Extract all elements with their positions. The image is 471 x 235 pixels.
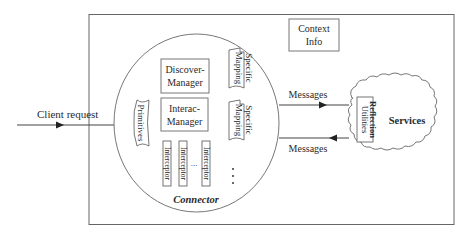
interceptor-1: Interceptor xyxy=(163,141,172,186)
discover-manager-label-1: Discover- xyxy=(165,64,204,75)
messages-in-label: Messages xyxy=(289,143,328,154)
interac-manager-label-2: Manager xyxy=(167,116,203,127)
specific-mapping-label-1: Specific xyxy=(244,53,254,83)
reflection-utilities-label-2: Utilities xyxy=(360,106,370,133)
arrowhead-icon xyxy=(56,122,64,129)
specific-mapping-label-2: Mapping xyxy=(234,52,244,85)
interceptor-label: Interceptor xyxy=(163,147,172,180)
client-request-arrow xyxy=(17,122,116,129)
architecture-diagram: Client request Context Info Primitives D… xyxy=(0,0,471,235)
specific-mapping-label-2: Mapping xyxy=(234,104,244,137)
reflection-utilities-box: Reflection Utilities xyxy=(357,97,378,142)
connector-label: Connector xyxy=(173,194,219,205)
specific-mapping-2: Specific Mapping xyxy=(229,100,254,140)
primitives-label: Primitives xyxy=(136,104,146,141)
interceptor-ellipsis: ... xyxy=(191,158,198,168)
interac-manager-label-1: Interac- xyxy=(169,103,200,114)
interceptor-3: Interceptor xyxy=(202,141,211,186)
primitives-component: Primitives xyxy=(134,100,149,146)
messages-out-arrow xyxy=(279,102,349,109)
services-label: Services xyxy=(389,115,426,126)
client-request-label: Client request xyxy=(37,108,98,120)
messages-out-label: Messages xyxy=(289,89,328,100)
specific-mapping-1: Specific Mapping xyxy=(229,48,254,88)
arrowhead-icon xyxy=(329,135,337,142)
specific-mapping-label-1: Specific xyxy=(244,105,254,135)
interceptor-label: Interceptor xyxy=(202,147,211,180)
arrowhead-icon xyxy=(319,102,327,109)
context-info-label-1: Context xyxy=(298,23,330,34)
messages-in-arrow xyxy=(279,135,349,142)
context-info-label-2: Info xyxy=(306,36,323,47)
interceptor-label: Interceptor xyxy=(179,147,188,180)
discover-manager-label-2: Manager xyxy=(167,77,203,88)
interceptor-2: Interceptor xyxy=(179,141,188,186)
